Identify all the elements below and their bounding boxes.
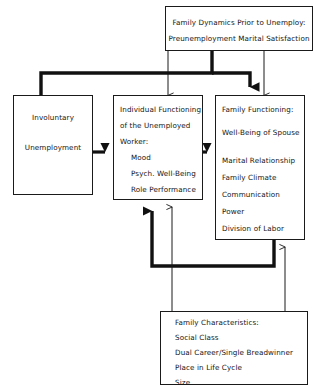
family-functioning-item-communication: Communication <box>222 191 280 198</box>
family-functioning-box[interactable]: Family Functioning: Well-Being of Spouse… <box>215 95 305 240</box>
family-characteristics-item-dual-career: Dual Career/Single Breadwinner <box>175 349 293 356</box>
family-functioning-item-marital-relationship: Marital Relationship <box>222 157 295 164</box>
diagram-canvas: Family Dynamics Prior to Unemploy: Preun… <box>0 0 317 388</box>
individual-functioning-item-role-performance: Role Performance <box>131 186 196 193</box>
individual-functioning-line-2: of the Unemployed <box>120 122 190 129</box>
family-characteristics-line-1: Family Characteristics: <box>175 319 259 326</box>
family-characteristics-item-place-in-life-cycle: Place in Life Cycle <box>175 364 242 371</box>
family-dynamics-box[interactable]: Family Dynamics Prior to Unemploy: Preun… <box>165 6 313 51</box>
family-functioning-item-power: Power <box>222 208 244 215</box>
involuntary-unemployment-box[interactable]: Involuntary Unemployment <box>13 95 93 195</box>
family-characteristics-item-size: Size <box>175 379 190 386</box>
involuntary-unemployment-line-2: Unemployment <box>14 144 92 151</box>
family-functioning-line-1: Family Functioning: <box>222 106 293 113</box>
individual-functioning-box[interactable]: Individual Functioning of the Unemployed… <box>113 95 203 200</box>
connector-dynamics-thick-bus <box>41 51 250 95</box>
family-dynamics-line-1: Family Dynamics Prior to Unemploy: <box>166 19 312 26</box>
individual-functioning-item-mood: Mood <box>131 154 151 161</box>
individual-functioning-line-1: Individual Functioning <box>120 106 201 113</box>
family-functioning-item-division-of-labor: Division of Labor <box>222 225 284 232</box>
family-characteristics-box[interactable]: Family Characteristics: Social Class Dua… <box>160 311 308 385</box>
family-characteristics-item-social-class: Social Class <box>175 334 219 341</box>
individual-functioning-line-3: Worker: <box>120 138 148 145</box>
individual-functioning-item-psych-well-being: Psych. Well-Being <box>131 170 196 177</box>
family-dynamics-line-2: Preunemployment Marital Satisfaction <box>166 35 312 42</box>
family-functioning-item-family-climate: Family Climate <box>222 174 276 181</box>
family-functioning-item-well-being-of-spouse: Well-Being of Spouse <box>222 129 300 136</box>
involuntary-unemployment-line-1: Involuntary <box>14 114 92 121</box>
